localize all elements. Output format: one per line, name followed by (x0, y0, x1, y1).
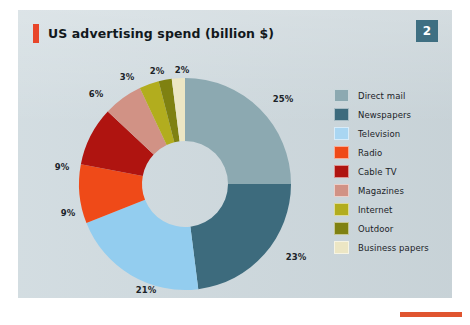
figure-frame: US advertising spend (billion $) 2 25%23… (0, 0, 470, 325)
legend-swatch-icon (334, 241, 349, 254)
donut-slice[interactable] (190, 184, 291, 289)
donut-chart: 25%23%21%9%9%6%3%2%2% (18, 48, 328, 298)
legend-item[interactable]: Cable TV (334, 162, 452, 181)
legend-item[interactable]: Direct mail (334, 86, 452, 105)
slice-percentage-label: 2% (150, 66, 164, 76)
legend-item[interactable]: Magazines (334, 181, 452, 200)
slice-percentage-label: 6% (89, 89, 103, 99)
legend-swatch-icon (334, 108, 349, 121)
legend-swatch-icon (334, 89, 349, 102)
slice-percentage-label: 9% (61, 208, 75, 218)
chart-header: US advertising spend (billion $) 2 (18, 16, 452, 50)
legend-swatch-icon (334, 146, 349, 159)
legend-item-label: Business papers (358, 243, 429, 253)
legend-item[interactable]: Internet (334, 200, 452, 219)
legend-item[interactable]: Radio (334, 143, 452, 162)
legend-item-label: Radio (358, 148, 382, 158)
chart-body: 25%23%21%9%9%6%3%2%2% Direct mailNewspap… (18, 48, 452, 298)
legend-item-label: Television (358, 129, 400, 139)
legend-swatch-icon (334, 184, 349, 197)
slice-percentage-label: 3% (120, 72, 134, 82)
legend-item-label: Direct mail (358, 91, 405, 101)
slice-percentage-label: 23% (286, 252, 306, 262)
legend-item[interactable]: Outdoor (334, 219, 452, 238)
slice-percentage-label: 21% (136, 285, 156, 295)
legend-item-label: Outdoor (358, 224, 393, 234)
legend-item-label: Internet (358, 205, 393, 215)
legend-swatch-icon (334, 222, 349, 235)
legend-swatch-icon (334, 165, 349, 178)
legend-item[interactable]: Television (334, 124, 452, 143)
legend-item-label: Magazines (358, 186, 404, 196)
page-number-badge: 2 (416, 20, 438, 42)
legend-item-label: Cable TV (358, 167, 397, 177)
slice-percentage-label: 25% (273, 94, 293, 104)
legend-item-label: Newspapers (358, 110, 411, 120)
donut-slice-group (79, 78, 291, 290)
legend-swatch-icon (334, 127, 349, 140)
legend: Direct mailNewspapersTelevisionRadioCabl… (334, 86, 452, 257)
legend-item[interactable]: Business papers (334, 238, 452, 257)
legend-swatch-icon (334, 203, 349, 216)
footer-accent-bar (400, 312, 462, 317)
legend-item[interactable]: Newspapers (334, 105, 452, 124)
slice-percentage-label: 2% (175, 65, 189, 75)
donut-chart-svg (18, 48, 328, 298)
slice-percentage-label: 9% (55, 162, 69, 172)
title-accent-bar (33, 24, 39, 43)
page-title: US advertising spend (billion $) (48, 26, 274, 41)
